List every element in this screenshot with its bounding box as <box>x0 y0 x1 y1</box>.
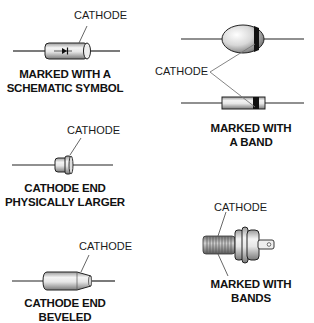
caption-schematic-symbol: MARKED WITH A SCHEMATIC SYMBOL <box>0 67 130 95</box>
cathode-pointer-label: CATHODE <box>79 240 132 252</box>
diode-schematic-marked <box>13 26 120 59</box>
caption-line: MARKED WITH A <box>0 67 130 81</box>
caption-band: MARKED WITH A BAND <box>196 121 306 149</box>
caption-line: A BAND <box>196 135 306 149</box>
diode-diagram-art <box>0 0 314 323</box>
diode-beveled-end <box>12 255 115 290</box>
caption-line: MARKED WITH <box>196 121 306 135</box>
caption-physically-larger: CATHODE END PHYSICALLY LARGER <box>0 181 130 209</box>
caption-line: PHYSICALLY LARGER <box>0 195 130 209</box>
cathode-pointer-label: CATHODE <box>214 201 267 213</box>
caption-line: BANDS <box>196 291 306 305</box>
caption-line: CATHODE END <box>0 181 130 195</box>
caption-line: MARKED WITH <box>196 277 306 291</box>
cathode-pointer-label: CATHODE <box>155 65 208 77</box>
caption-line: BEVELED <box>0 310 130 323</box>
diode-stud-bands <box>203 212 274 276</box>
caption-line: CATHODE END <box>0 296 130 310</box>
caption-beveled: CATHODE END BEVELED <box>0 296 130 323</box>
cathode-pointer-label: CATHODE <box>74 9 127 21</box>
caption-bands: MARKED WITH BANDS <box>196 277 306 305</box>
diode-larger-end <box>12 138 113 174</box>
caption-line: SCHEMATIC SYMBOL <box>0 81 130 95</box>
cathode-pointer-label: CATHODE <box>67 124 120 136</box>
